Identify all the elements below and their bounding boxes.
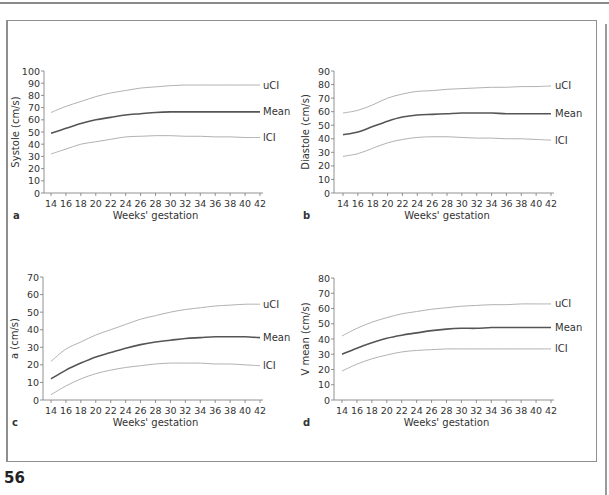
x-tick-label: 36 xyxy=(500,405,512,416)
x-tick-label: 26 xyxy=(426,405,438,416)
x-tick-label: 22 xyxy=(396,405,408,416)
y-tick-label: 0 xyxy=(324,395,330,406)
series-line-lci xyxy=(342,349,551,371)
series-label-lci: lCI xyxy=(555,343,568,354)
x-tick-label: 18 xyxy=(366,405,378,416)
x-tick-label: 32 xyxy=(470,405,482,416)
x-tick-label: 42 xyxy=(545,405,557,416)
x-tick-label: 20 xyxy=(381,405,393,416)
y-tick-label: 80 xyxy=(318,273,330,284)
x-tick-label: 16 xyxy=(351,405,363,416)
y-tick-label: 70 xyxy=(318,288,330,299)
y-tick-label: 40 xyxy=(318,334,330,345)
series-label-mean: Mean xyxy=(555,322,582,333)
x-tick-label: 24 xyxy=(411,405,423,416)
series-label-uci: uCI xyxy=(555,298,571,309)
x-tick-label: 34 xyxy=(485,405,497,416)
y-tick-label: 60 xyxy=(318,303,330,314)
x-tick-label: 30 xyxy=(455,405,467,416)
y-tick-label: 10 xyxy=(318,379,330,390)
x-tick-label: 14 xyxy=(336,405,348,416)
series-line-mean xyxy=(342,328,551,355)
x-tick-label: 38 xyxy=(515,405,527,416)
panel-letter: d xyxy=(303,417,310,428)
y-tick-label: 20 xyxy=(318,364,330,375)
x-tick-label: 28 xyxy=(440,405,452,416)
y-tick-label: 50 xyxy=(318,318,330,329)
x-axis-label: Weeks' gestation xyxy=(404,417,489,428)
series-line-uci xyxy=(342,304,551,336)
y-axis-label: V mean (cm/s) xyxy=(300,302,311,375)
x-tick-label: 40 xyxy=(530,405,542,416)
chart-panel-d: 0102030405060708014161820222426283032343… xyxy=(0,0,609,495)
y-tick-label: 30 xyxy=(318,349,330,360)
